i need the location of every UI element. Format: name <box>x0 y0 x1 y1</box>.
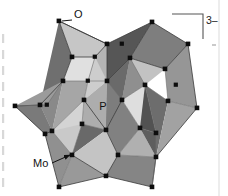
label-phosphorus: P <box>99 100 106 112</box>
figure-container: O P Mo 3– <box>0 0 228 196</box>
label-charge: 3– <box>206 14 218 26</box>
label-molybdenum: Mo <box>33 157 48 169</box>
label-oxygen: O <box>74 8 83 20</box>
molecular-structure-figure: O P Mo 3– <box>0 0 228 196</box>
